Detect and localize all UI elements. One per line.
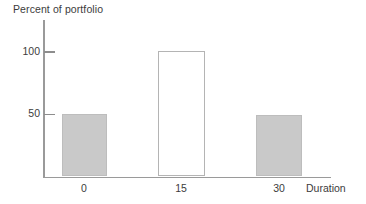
y-tick-label-50: 50 bbox=[12, 108, 40, 119]
y-tick-mark-50 bbox=[44, 114, 55, 115]
y-tick-label-100: 100 bbox=[12, 46, 40, 57]
bar-duration-0 bbox=[62, 114, 107, 177]
bar-chart-figure: Percent of portfolio 100 50 0 15 30 Dura… bbox=[0, 0, 366, 204]
y-axis-title: Percent of portfolio bbox=[13, 3, 103, 15]
x-axis-line bbox=[43, 177, 331, 179]
x-tick-label-15: 15 bbox=[161, 182, 201, 194]
y-axis-line bbox=[43, 20, 45, 178]
bar-duration-15 bbox=[158, 51, 205, 176]
x-axis-title: Duration bbox=[306, 182, 346, 194]
bar-duration-30 bbox=[256, 115, 302, 176]
y-tick-mark-100 bbox=[44, 51, 55, 52]
x-tick-label-0: 0 bbox=[64, 182, 104, 194]
x-tick-label-30: 30 bbox=[259, 182, 299, 194]
